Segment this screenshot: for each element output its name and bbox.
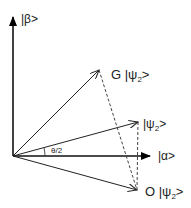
angle-label: θ/2 bbox=[51, 146, 63, 155]
psi2-label: |ψ2> bbox=[143, 117, 166, 133]
o-psi2-label: O |ψ2> bbox=[145, 184, 183, 201]
g-psi2-vector bbox=[13, 70, 99, 156]
angle-arc bbox=[44, 148, 45, 156]
geometric-diagram: |β> |α> G |ψ2> |ψ2> O |ψ2> θ/2 bbox=[0, 0, 191, 208]
g-psi2-label: G |ψ2> bbox=[111, 67, 149, 84]
o-psi2-vector bbox=[13, 156, 137, 190]
beta-axis-label: |β> bbox=[21, 12, 38, 26]
alpha-axis-label: |α> bbox=[158, 149, 175, 163]
dashed-g-to-o bbox=[99, 70, 137, 190]
psi2-vector bbox=[13, 122, 138, 156]
